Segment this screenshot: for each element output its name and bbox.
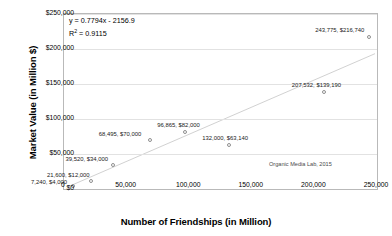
data-point-label: 21,600, $12,000 [47, 172, 90, 179]
data-point-label: 243,775, $216,740 [315, 27, 364, 34]
r-squared-value: R2 = 0.9115 [69, 26, 135, 39]
y-axis-tick-label: $200,000 [18, 44, 74, 51]
regression-equation-block: y = 0.7794x - 2156.9 R2 = 0.9115 [69, 16, 135, 39]
x-axis-tick-label: 250,000 [346, 181, 392, 188]
x-axis-tick-label: 0 [33, 181, 93, 188]
data-point-label: 207,532, $139,190 [292, 82, 341, 89]
gridline-horizontal [64, 119, 377, 120]
gridline-horizontal [64, 154, 377, 155]
data-point-label: 132,000, $63,140 [202, 135, 248, 142]
data-point[interactable] [322, 90, 326, 94]
y-axis-tick-label: $50,000 [18, 149, 74, 156]
scatter-chart: Market Value (in Million $) Number of Fr… [0, 0, 392, 236]
regression-equation: y = 0.7794x - 2156.9 [69, 16, 135, 26]
data-point-label: 96,865, $82,000 [157, 122, 200, 129]
y-axis-tick-label: $150,000 [18, 79, 74, 86]
y-axis-tick-label: $250,000 [18, 9, 74, 16]
gridline-horizontal [64, 14, 377, 15]
data-point[interactable] [183, 130, 187, 134]
data-point[interactable] [148, 138, 152, 142]
x-axis-tick-label: 150,000 [221, 181, 281, 188]
data-point-label: 68,495, $70,000 [99, 131, 142, 138]
gridline-horizontal [64, 49, 377, 50]
y-axis-tick-label: $100,000 [18, 114, 74, 121]
x-axis-tick-label: 100,000 [158, 181, 218, 188]
data-point-label: 39,520, $34,000 [65, 156, 108, 163]
x-axis-tick-label: 50,000 [96, 181, 156, 188]
r-squared-number: = 0.9115 [77, 29, 107, 38]
plot-area: y = 0.7794x - 2156.9 R2 = 0.9115 Organic… [63, 13, 378, 190]
x-axis-tick-label: 200,000 [283, 181, 343, 188]
credit-annotation: Organic Media Lab, 2015 [269, 161, 332, 167]
x-axis-title: Number of Friendships (in Million) [0, 216, 392, 227]
